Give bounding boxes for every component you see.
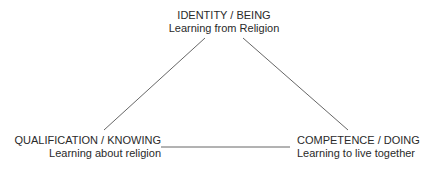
node-subtitle: Learning about religion (15, 147, 161, 160)
node-identity-being: IDENTITY / BEING Learning from Religion (0, 9, 425, 35)
edge-top-left (104, 38, 205, 130)
node-title: QUALIFICATION / KNOWING (15, 134, 161, 147)
node-subtitle: Learning from Religion (0, 22, 425, 35)
node-title: IDENTITY / BEING (0, 9, 425, 22)
node-competence-doing: COMPETENCE / DOING Learning to live toge… (297, 134, 420, 160)
node-qualification-knowing: QUALIFICATION / KNOWING Learning about r… (15, 134, 161, 160)
node-title: COMPETENCE / DOING (297, 134, 420, 147)
edge-top-right (243, 38, 348, 130)
node-subtitle: Learning to live together (297, 147, 420, 160)
